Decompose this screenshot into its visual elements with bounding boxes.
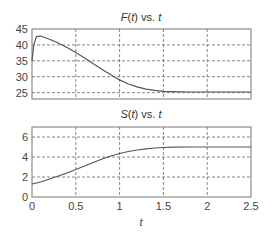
x-axis-label: t (139, 216, 143, 228)
f-vs-t-chart: F(t) vs. t 2530354045 (16, 11, 251, 99)
y-tick-label: 25 (16, 87, 28, 99)
plot-frame (32, 127, 251, 197)
x-tick-label: 2.5 (243, 200, 258, 212)
f-series-line (32, 36, 251, 92)
y-tick-labels: 2530354045 (16, 23, 28, 99)
x-tick-label: 1.5 (156, 200, 171, 212)
y-tick-label: 2 (22, 171, 28, 183)
y-tick-label: 45 (16, 23, 28, 35)
grid-lines (32, 127, 251, 197)
chart-title: S(t) vs. t (121, 108, 163, 120)
y-tick-label: 0 (22, 191, 28, 203)
x-tick-label: 0.5 (68, 200, 83, 212)
s-series-line (32, 147, 251, 184)
y-tick-label: 6 (22, 131, 28, 143)
chart-canvas: F(t) vs. t 2530354045 S(t) vs. t 0246 00… (0, 0, 274, 235)
x-tick-label: 2 (204, 200, 210, 212)
y-tick-labels: 0246 (22, 131, 28, 203)
y-tick-label: 4 (22, 151, 28, 163)
y-tick-label: 35 (16, 55, 28, 67)
x-tick-label: 1 (117, 200, 123, 212)
x-tick-labels: 00.511.522.5 (29, 200, 259, 212)
y-tick-label: 30 (16, 71, 28, 83)
x-tick-label: 0 (29, 200, 35, 212)
y-tick-label: 40 (16, 39, 28, 51)
s-vs-t-chart: S(t) vs. t 0246 00.511.522.5 t (22, 108, 259, 228)
chart-title: F(t) vs. t (121, 11, 162, 23)
